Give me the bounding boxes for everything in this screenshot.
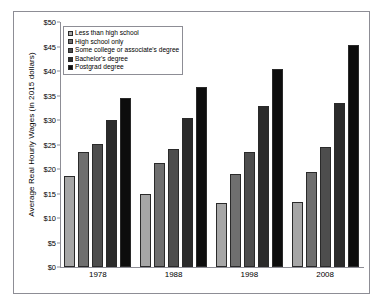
bar[interactable] <box>216 203 227 267</box>
legend-item[interactable]: Postgrad degree <box>68 64 178 71</box>
x-axis-label: 1978 <box>60 270 136 279</box>
legend-item[interactable]: High school only <box>68 39 178 46</box>
bar[interactable] <box>230 174 241 267</box>
legend-item[interactable]: Some college or associate's degree <box>68 47 178 54</box>
bar[interactable] <box>120 98 131 267</box>
x-axis-label: 1988 <box>136 270 212 279</box>
bar[interactable] <box>92 144 103 267</box>
legend-swatch-icon <box>68 39 73 44</box>
legend-label: High school only <box>75 39 123 46</box>
y-tick-label: $30 <box>43 116 56 125</box>
y-tick-label: $20 <box>43 165 56 174</box>
bar[interactable] <box>292 202 303 267</box>
bar[interactable] <box>196 87 207 267</box>
bar[interactable] <box>334 103 345 267</box>
legend-item[interactable]: Less than high school <box>68 30 178 37</box>
bar[interactable] <box>64 176 75 267</box>
x-axis-label: 1998 <box>212 270 288 279</box>
chart-container: Average Real Hourly Wages (in 2015 dolla… <box>0 0 383 306</box>
legend-swatch-icon <box>68 57 73 62</box>
x-axis-labels: 1978198819982008 <box>60 270 363 279</box>
y-tick-label: $0 <box>48 263 56 272</box>
y-axis-title: Average Real Hourly Wages (in 2015 dolla… <box>27 30 36 240</box>
y-tick-label: $45 <box>43 42 56 51</box>
bar[interactable] <box>182 118 193 267</box>
legend-swatch-icon <box>68 65 73 70</box>
legend-label: Postgrad degree <box>75 64 124 71</box>
y-tick-label: $5 <box>48 238 56 247</box>
bar[interactable] <box>306 172 317 267</box>
bar[interactable] <box>320 147 331 267</box>
bar[interactable] <box>140 194 151 267</box>
x-axis-label: 2008 <box>287 270 363 279</box>
legend-swatch-icon <box>68 31 73 36</box>
bar[interactable] <box>348 45 359 267</box>
x-axis-line <box>60 267 364 268</box>
legend-item[interactable]: Bachelor's degree <box>68 56 178 63</box>
bar[interactable] <box>244 152 255 267</box>
y-tick-label: $25 <box>43 140 56 149</box>
y-tick-label: $15 <box>43 189 56 198</box>
y-tick-label: $10 <box>43 214 56 223</box>
bar[interactable] <box>106 120 117 267</box>
y-tick-label: $35 <box>43 91 56 100</box>
bar[interactable] <box>168 149 179 267</box>
y-tick-label: $50 <box>43 18 56 27</box>
legend-swatch-icon <box>68 48 73 53</box>
y-tick-label: $40 <box>43 67 56 76</box>
bar[interactable] <box>154 163 165 267</box>
bar-group <box>212 22 288 267</box>
bar[interactable] <box>258 106 269 267</box>
bar[interactable] <box>272 69 283 267</box>
chart-legend: Less than high schoolHigh school onlySom… <box>63 26 183 75</box>
legend-label: Some college or associate's degree <box>75 47 179 54</box>
bar[interactable] <box>78 152 89 267</box>
legend-label: Less than high school <box>75 30 139 37</box>
legend-label: Bachelor's degree <box>75 56 128 63</box>
bar-group <box>287 22 363 267</box>
